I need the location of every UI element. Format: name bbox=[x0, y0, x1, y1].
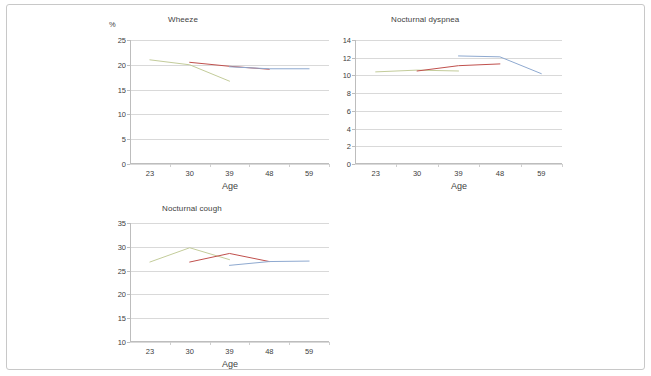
chart-panel-wheeze: % Wheeze 25201510502330394859 Age bbox=[100, 9, 340, 189]
chart-title-nocturnal-dyspnea: Nocturnal dyspnea bbox=[391, 15, 459, 24]
y-tick-label: 8 bbox=[329, 89, 351, 98]
y-tick-mark bbox=[127, 164, 130, 165]
y-tick-label: 5 bbox=[104, 135, 126, 144]
chart-panel-nocturnal-dyspnea: Nocturnal dyspnea 141210864202330394859 … bbox=[329, 9, 589, 189]
x-tick-label: 39 bbox=[225, 347, 233, 356]
gridline bbox=[130, 164, 329, 165]
series-layer bbox=[355, 40, 562, 164]
x-tick-mark bbox=[289, 342, 290, 345]
y-tick-label: 10 bbox=[329, 71, 351, 80]
x-tick-label: 23 bbox=[146, 347, 154, 356]
x-tick-label: 23 bbox=[146, 169, 154, 178]
x-tick-label: 48 bbox=[265, 169, 273, 178]
x-tick-mark bbox=[170, 342, 171, 345]
plot-area-nocturnal-dyspnea: 141210864202330394859 bbox=[355, 40, 562, 164]
series-layer bbox=[130, 40, 329, 164]
x-tick-mark bbox=[396, 164, 397, 167]
y-tick-label: 15 bbox=[104, 85, 126, 94]
y-tick-label: 12 bbox=[329, 53, 351, 62]
chart-title-nocturnal-cough: Nocturnal cough bbox=[162, 204, 222, 213]
y-tick-label: 25 bbox=[104, 36, 126, 45]
y-tick-label: 0 bbox=[104, 160, 126, 169]
chart-title-wheeze: Wheeze bbox=[168, 15, 198, 24]
y-tick-label: 15 bbox=[104, 314, 126, 323]
gridline bbox=[355, 164, 562, 165]
x-axis-title-wheeze: Age bbox=[222, 181, 238, 191]
series-line-cohort-green bbox=[150, 60, 230, 81]
y-tick-label: 30 bbox=[104, 242, 126, 251]
x-tick-mark bbox=[249, 342, 250, 345]
series-line-cohort-blue bbox=[230, 67, 310, 69]
x-tick-mark bbox=[562, 164, 563, 167]
x-tick-label: 30 bbox=[413, 169, 421, 178]
y-tick-mark bbox=[127, 342, 130, 343]
x-tick-label: 59 bbox=[305, 169, 313, 178]
y-tick-mark bbox=[352, 164, 355, 165]
x-tick-mark bbox=[438, 164, 439, 167]
x-tick-mark bbox=[210, 164, 211, 167]
x-tick-mark bbox=[210, 342, 211, 345]
x-tick-label: 23 bbox=[372, 169, 380, 178]
x-tick-mark bbox=[170, 164, 171, 167]
plot-area-wheeze: 25201510502330394859 bbox=[130, 40, 329, 164]
x-tick-label: 39 bbox=[454, 169, 462, 178]
x-tick-mark bbox=[479, 164, 480, 167]
gridline bbox=[130, 342, 329, 343]
y-tick-label: 10 bbox=[104, 338, 126, 347]
y-tick-label: 4 bbox=[329, 124, 351, 133]
series-line-cohort-blue bbox=[230, 261, 310, 265]
chart-panel-nocturnal-cough: Nocturnal cough 3530252015102330394859 A… bbox=[100, 199, 340, 375]
series-line-cohort-red bbox=[190, 253, 270, 262]
x-tick-label: 30 bbox=[186, 169, 194, 178]
figure-frame: % Wheeze 25201510502330394859 Age Noctur… bbox=[6, 4, 645, 370]
x-tick-label: 59 bbox=[537, 169, 545, 178]
x-axis-title-nocturnal-dyspnea: Age bbox=[451, 181, 467, 191]
x-tick-mark bbox=[289, 164, 290, 167]
x-tick-label: 59 bbox=[305, 347, 313, 356]
x-tick-label: 30 bbox=[186, 347, 194, 356]
plot-area-nocturnal-cough: 3530252015102330394859 bbox=[130, 223, 329, 342]
y-tick-label: 0 bbox=[329, 160, 351, 169]
series-layer bbox=[130, 223, 329, 342]
y-tick-label: 14 bbox=[329, 36, 351, 45]
x-tick-mark bbox=[329, 342, 330, 345]
x-tick-mark bbox=[249, 164, 250, 167]
x-axis-title-nocturnal-cough: Age bbox=[222, 359, 238, 369]
series-line-cohort-green bbox=[150, 248, 230, 262]
y-tick-label: 25 bbox=[104, 266, 126, 275]
y-unit-label-wheeze: % bbox=[109, 20, 116, 29]
y-tick-label: 20 bbox=[104, 60, 126, 69]
y-tick-label: 20 bbox=[104, 290, 126, 299]
x-tick-label: 48 bbox=[496, 169, 504, 178]
x-tick-mark bbox=[521, 164, 522, 167]
y-tick-label: 2 bbox=[329, 142, 351, 151]
x-tick-label: 48 bbox=[265, 347, 273, 356]
y-tick-label: 6 bbox=[329, 106, 351, 115]
x-tick-label: 39 bbox=[225, 169, 233, 178]
y-tick-label: 10 bbox=[104, 110, 126, 119]
y-tick-label: 35 bbox=[104, 219, 126, 228]
